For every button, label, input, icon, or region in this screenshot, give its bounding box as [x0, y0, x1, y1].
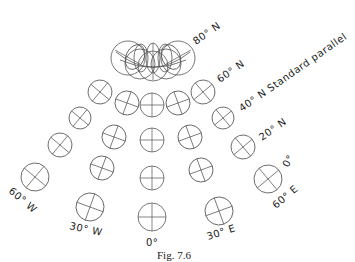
indicatrix-circle — [72, 189, 108, 225]
indicatrix-circle — [186, 155, 217, 186]
indicatrix-circle — [226, 130, 260, 164]
indicatrix-circle — [112, 88, 143, 119]
projection-diagram: 80° N 60° N 40° N Standard parallel 20° … — [0, 0, 355, 262]
label-0-meridian: 0° — [146, 237, 158, 248]
indicatrix-circle — [65, 103, 96, 134]
label-0-equator: 0° — [280, 153, 296, 169]
indicatrix-circle — [87, 153, 118, 184]
label-40n-standard-parallel: 40° N Standard parallel — [237, 31, 349, 114]
indicatrix-circle — [83, 75, 117, 109]
label-60w: 60° W — [7, 185, 40, 215]
indicatrix-circle — [138, 203, 166, 231]
indicatrix-circle — [99, 122, 130, 153]
indicatrix-circle — [140, 166, 164, 190]
indicatrix-circle — [175, 122, 206, 153]
label-80n: 80° N — [191, 20, 223, 47]
indicatrix-circle — [140, 128, 164, 152]
indicatrix-circle — [43, 128, 77, 162]
indicatrix-circle — [186, 75, 220, 109]
label-20n: 20° N — [257, 116, 289, 143]
label-60n: 60° N — [215, 58, 247, 85]
label-30w: 30° W — [69, 220, 104, 238]
indicatrix-circle — [140, 93, 164, 117]
indicatrix-circle — [208, 103, 239, 134]
polar-indicatrix-cluster — [111, 41, 195, 81]
indicatrix-circle — [163, 88, 194, 119]
figure-caption: Fig. 7.6 — [157, 249, 191, 261]
